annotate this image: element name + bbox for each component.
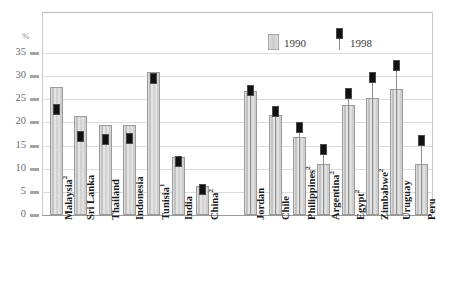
marker-stem-1998	[372, 77, 373, 215]
marker-1998	[102, 134, 109, 145]
marker-1998	[418, 135, 425, 146]
bar-group	[196, 12, 209, 215]
x-axis-label: Argentina2	[328, 171, 341, 220]
chart-frame-right	[432, 12, 433, 215]
marker-stem-1998	[299, 127, 300, 215]
x-axis-label: Thailand	[110, 179, 121, 220]
y-tick-label: 25	[8, 93, 26, 104]
marker-1998	[296, 122, 303, 133]
x-axis-label: Jordan	[255, 188, 266, 220]
bar-group	[415, 12, 428, 215]
marker-stem-1998	[396, 66, 397, 216]
marker-1998	[199, 184, 206, 195]
chart-axis-baseline	[42, 215, 432, 216]
y-tick-mark	[30, 145, 39, 148]
bar-group	[342, 12, 355, 215]
x-axis-label: Philippines2	[304, 166, 317, 220]
marker-1998	[126, 133, 133, 144]
marker-stem-1998	[421, 141, 422, 215]
bar-group	[244, 12, 257, 215]
marker-1998	[77, 131, 84, 142]
y-tick-mark	[30, 168, 39, 171]
y-tick-mark	[30, 98, 39, 101]
marker-1998	[369, 72, 376, 83]
marker-1998	[393, 60, 400, 71]
x-axis-label: Sri Lanka	[85, 175, 96, 220]
x-axis-label: Peru	[426, 198, 437, 220]
x-axis-label: Indonesia	[134, 176, 145, 220]
bar-group	[269, 12, 282, 215]
y-tick-mark	[30, 214, 39, 217]
x-axis-label: Zimbabwe2	[377, 169, 390, 220]
x-axis-label: Malaysia2	[61, 176, 74, 220]
x-axis-label: Chile	[280, 196, 291, 220]
y-tick-label: 20	[8, 116, 26, 127]
x-axis-label: Uruguay	[401, 180, 412, 220]
plot-area	[42, 12, 432, 215]
y-tick-label: 0	[8, 209, 26, 220]
marker-1998	[320, 144, 327, 155]
x-axis-label: Egypt2	[353, 190, 366, 220]
y-tick-mark	[30, 52, 39, 55]
y-tick-mark	[30, 191, 39, 194]
y-tick-mark	[30, 121, 39, 124]
y-tick-label: 30	[8, 70, 26, 81]
x-axis-label: China2	[207, 189, 220, 220]
marker-1998	[175, 156, 182, 167]
marker-1998	[272, 106, 279, 117]
y-tick-label: 35	[8, 47, 26, 58]
marker-stem-1998	[323, 149, 324, 215]
y-tick-label: 15	[8, 140, 26, 151]
y-tick-mark	[30, 75, 39, 78]
marker-1998	[150, 73, 157, 84]
marker-1998	[53, 104, 60, 115]
marker-stem-1998	[348, 93, 349, 215]
x-axis-label: India	[183, 196, 194, 220]
bar-group	[172, 12, 185, 215]
y-tick-label: 10	[8, 163, 26, 174]
marker-1998	[345, 88, 352, 99]
marker-1998	[247, 85, 254, 96]
y-axis-unit-label: %	[22, 31, 30, 41]
y-tick-label: 5	[8, 186, 26, 197]
marker-stem-1998	[250, 90, 251, 215]
chart-container: % 35302520151050 1990 1998 Malaysia2Sri …	[0, 0, 460, 303]
x-axis-label: Tunisia1	[158, 184, 171, 220]
marker-stem-1998	[275, 112, 276, 215]
